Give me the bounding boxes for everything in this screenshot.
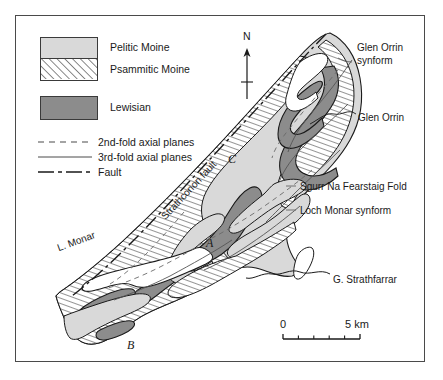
- map-label-loch-monar-synform: Loch Monar synform: [300, 205, 391, 218]
- map-label-glen-orrin-synform: Glen Orrin synform: [357, 42, 403, 67]
- legend-label-lewisian: Lewisian: [110, 101, 151, 114]
- region-white-sliver-east: [294, 247, 314, 279]
- legend-swatch-pelitic-moine: [40, 37, 98, 59]
- legend-label-2nd-fold-axial-planes: 2nd-fold axial planes: [98, 136, 194, 149]
- map-label-glen-orrin-synform-line1: Glen Orrin: [357, 42, 403, 55]
- map-label-g-strathfarrar: G. Strathfarrar: [333, 274, 397, 287]
- legend-label-fault: Fault: [98, 166, 121, 179]
- legend-swatch-psammitic-moine: [40, 59, 98, 81]
- scale-bar: [283, 334, 360, 339]
- section-marker-c: C: [228, 152, 236, 167]
- legend-swatch-psammitic-hatch: [41, 59, 97, 79]
- legend-line-samples: [38, 142, 92, 172]
- legend-label-psammitic-moine: Psammitic Moine: [110, 63, 190, 76]
- legend-swatch-lewisian: [40, 96, 98, 120]
- legend-label-pelitic-moine: Pelitic Moine: [110, 41, 170, 54]
- legend-label-3rd-fold-axial-planes: 3rd-fold axial planes: [98, 151, 192, 164]
- scale-bar-label-left: 0: [280, 318, 286, 330]
- north-arrow: [241, 48, 253, 99]
- geological-map-figure: Pelitic Moine Psammitic Moine Lewisian 2…: [0, 0, 443, 380]
- map-label-glen-orrin: Glen Orrin: [358, 112, 404, 125]
- scale-bar-label-right: 5 km: [345, 318, 369, 330]
- map-label-sgurr-na-fearstaig-fold: Sgurr Na Fearstaig Fold: [300, 181, 407, 194]
- section-marker-a: A: [206, 236, 213, 251]
- section-marker-b: B: [127, 338, 134, 353]
- north-arrow-label: N: [243, 30, 251, 42]
- map-label-glen-orrin-synform-line2: synform: [357, 55, 403, 68]
